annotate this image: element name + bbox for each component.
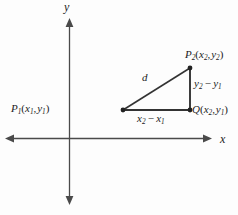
q-coord-y-sub: 1 — [221, 109, 225, 117]
point-label-q: Q(x2, y1) — [192, 104, 228, 115]
p1-name: P — [11, 102, 18, 114]
y-axis-arrow-down-icon — [66, 196, 74, 205]
y-axis — [66, 18, 74, 205]
q-coord-x-sub: 2 — [209, 109, 213, 117]
p2-coord-y-sub: 2 — [216, 54, 220, 62]
q-comma: , — [212, 103, 215, 115]
p2-close-paren: ) — [220, 48, 224, 60]
q-coord-x: x — [204, 103, 209, 115]
y-axis-label: y — [64, 1, 69, 13]
hypotenuse-label: d — [142, 72, 148, 83]
p1-coord-y-sub: 1 — [42, 108, 46, 116]
p2-name: P — [185, 48, 192, 60]
distance-formula-figure: y x P2(x2, y2) P1(x1, y1) Q(x2, y1) y2 −… — [0, 0, 238, 215]
vertical-leg-label: y2 − y1 — [194, 78, 222, 89]
p1-coord-x-sub: 1 — [30, 108, 34, 116]
hypotenuse — [123, 68, 190, 110]
p2-coord-x-sub: 2 — [204, 54, 208, 62]
x-axis-label: x — [220, 133, 225, 145]
dx-sub-a: 2 — [142, 118, 146, 126]
x-axis-arrow-right-icon — [203, 135, 212, 143]
p1-subscript: 1 — [18, 108, 22, 116]
x-axis — [5, 135, 212, 143]
vertex-dot-p1 — [121, 108, 126, 113]
point-label-p1: P1(x1, y1) — [11, 103, 49, 114]
p2-subscript: 2 — [192, 54, 196, 62]
point-label-p2: P2(x2, y2) — [185, 49, 223, 60]
dx-sub-b: 1 — [161, 118, 165, 126]
q-name: Q — [192, 103, 200, 115]
dy-minus: − — [205, 77, 211, 89]
q-coord-y: y — [216, 103, 221, 115]
y-axis-arrow-up-icon — [66, 18, 74, 27]
vertex-dot-p2 — [188, 66, 193, 71]
q-close-paren: ) — [224, 103, 228, 115]
dy-sub-a: 2 — [199, 83, 203, 91]
dy-sub-b: 1 — [218, 83, 222, 91]
horizontal-leg-label: x2 − x1 — [137, 113, 165, 124]
dx-minus: − — [148, 112, 154, 124]
x-axis-arrow-left-icon — [5, 135, 14, 143]
p1-close-paren: ) — [46, 102, 50, 114]
right-triangle — [123, 68, 190, 110]
